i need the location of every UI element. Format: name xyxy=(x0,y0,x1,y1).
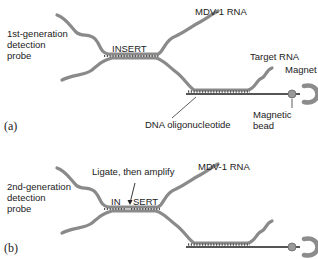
panel-b-letter: (b) xyxy=(4,241,18,256)
dna-oligonucleotide-label: DNA oligonucleotide xyxy=(145,119,231,130)
insert-left-label: IN xyxy=(111,196,121,207)
insert-label: INSERT xyxy=(112,43,147,54)
diagram-canvas: 1st-generation detection probe INSERT MD… xyxy=(0,0,318,259)
probe-a-label: 1st-generation detection probe xyxy=(7,28,68,61)
magnetic-bead-label: Magnetic bead xyxy=(253,109,292,131)
mdv-rna-label-a: MDV-1 RNA xyxy=(195,6,247,17)
oligo-pointer-a xyxy=(172,97,196,118)
magnet-label: Magnet xyxy=(285,64,317,75)
mdv-rna-label-b: MDV-1 RNA xyxy=(198,161,250,172)
target-b-lower-strand xyxy=(62,211,272,243)
magnet-a xyxy=(304,86,318,103)
panel-a-letter: (a) xyxy=(4,119,17,134)
magnetic-bead-b xyxy=(288,243,296,251)
panel-b-graphics xyxy=(57,164,318,255)
ligate-arrowhead xyxy=(128,200,133,205)
panel-a-graphics xyxy=(57,11,318,118)
probe-b-label: 2nd-generation detection probe xyxy=(7,181,71,214)
target-rna-label: Target RNA xyxy=(250,51,299,62)
insert-right-label: SERT xyxy=(133,196,158,207)
target-a-lower-strand xyxy=(62,58,272,90)
magnetic-bead-a xyxy=(288,90,296,98)
ligate-label: Ligate, then amplify xyxy=(92,166,174,177)
magnet-b xyxy=(304,239,318,256)
